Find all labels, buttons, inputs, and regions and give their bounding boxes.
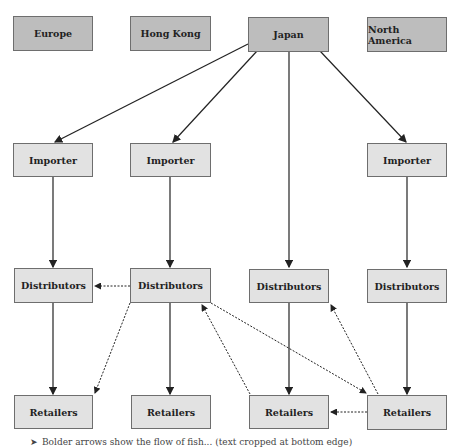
distributors-label: Distributors [375,281,440,292]
importer-label: Importer [383,155,431,166]
origin-europe: Europe [13,16,93,51]
retailers-4: Retailers [367,395,447,430]
origin-hong-kong: Hong Kong [130,16,211,51]
retailers-label: Retailers [147,407,195,418]
retailers-label: Retailers [383,407,431,418]
arrow-japan-importer2 [173,51,257,142]
retailers-label: Retailers [29,407,77,418]
retailers-label: Retailers [265,407,313,418]
distributors-1: Distributors [14,268,93,303]
legend-text: Bolder arrows show the flow of fish... (… [42,437,352,447]
distributors-label: Distributors [257,281,322,292]
legend-arrow-icon: ➤ [30,437,38,447]
legend: ➤Bolder arrows show the flow of fish... … [30,437,352,447]
origin-label: Europe [34,28,72,39]
importer-4: Importer [367,143,447,177]
distributors-label: Distributors [138,280,203,291]
distributors-3: Distributors [249,269,329,303]
importer-label: Importer [29,155,77,166]
importer-2: Importer [130,143,211,177]
distributors-2: Distributors [130,268,211,303]
origin-label: Japan [273,29,303,40]
arrow-japan-importer1 [55,44,248,142]
origin-japan: Japan [248,17,329,52]
distributors-4: Distributors [367,269,447,303]
origin-label: North America [368,24,446,46]
importer-label: Importer [147,155,195,166]
importer-1: Importer [13,143,93,177]
origin-north-america: North America [367,17,447,52]
distributors-label: Distributors [21,280,86,291]
arrow-japan-importer4 [320,51,406,142]
retailers-2: Retailers [131,395,211,429]
retailers-3: Retailers [249,395,329,429]
retailers-1: Retailers [14,395,93,429]
origin-label: Hong Kong [140,28,200,39]
